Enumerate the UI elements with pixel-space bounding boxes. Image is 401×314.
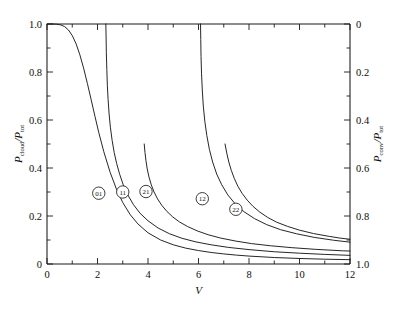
x-axis-label: V [195,284,203,296]
x-tick-label: 2 [95,269,100,280]
y-tick-label-left: 0.4 [29,163,43,174]
y-tick-label-right: 0.6 [356,163,369,174]
y-axis-label-right: Pconv/Ptot [371,126,384,163]
series-badge-label-12: 12 [199,195,207,203]
y-tick-label-left: 0 [37,259,42,270]
x-tick-label: 0 [44,269,49,280]
curve-01 [47,24,350,260]
x-tick-label: 10 [294,269,305,280]
y-tick-label-left: 0.8 [29,67,42,78]
y-tick-label-right: 0.2 [356,67,369,78]
y-tick-label-right: 1.0 [356,259,369,270]
figure-container: 024681012V00.20.40.60.81.000.20.40.60.81… [0,0,401,314]
x-tick-label: 8 [246,269,251,280]
svg-text:Pconv/Ptot: Pconv/Ptot [371,126,384,163]
y-tick-label-left: 0.2 [29,211,42,222]
x-tick-label: 12 [345,269,356,280]
curve-11 [106,24,350,255]
series-badge-label-11: 11 [119,189,126,197]
y-axis-label-left: Pcloud/Ptot [12,125,25,164]
series-badge-label-21: 21 [142,188,150,196]
curve-12 [201,24,350,242]
svg-text:Pcloud/Ptot: Pcloud/Ptot [12,125,25,164]
x-tick-label: 6 [196,269,201,280]
y-tick-label-right: 0 [356,19,361,30]
y-tick-label-right: 0.8 [356,211,369,222]
series-badge-label-01: 01 [95,190,103,198]
curve-22 [225,144,350,239]
series-badge-label-22: 22 [232,206,240,214]
y-tick-label-right: 0.4 [356,115,370,126]
plot-frame [47,24,350,264]
y-tick-label-left: 1.0 [29,19,42,30]
y-tick-label-left: 0.6 [29,115,42,126]
chart-canvas: 024681012V00.20.40.60.81.000.20.40.60.81… [0,0,401,314]
x-tick-label: 4 [145,269,151,280]
